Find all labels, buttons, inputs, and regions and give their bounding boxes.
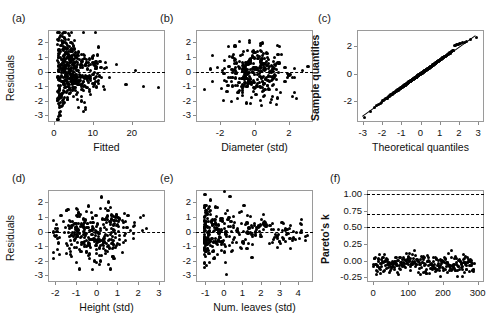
data-point [246, 49, 249, 52]
data-point [291, 95, 294, 98]
data-point [99, 259, 102, 262]
x-tickmark [76, 282, 77, 285]
x-tickmark [205, 282, 206, 285]
x-axis-tick-label: 300 [458, 287, 498, 298]
data-point [112, 228, 115, 231]
data-point [64, 46, 67, 49]
x-axis-tick-label: 10 [73, 127, 113, 138]
data-point [216, 206, 219, 209]
data-point [57, 48, 60, 51]
data-point [232, 215, 235, 218]
x-tickmark [363, 122, 364, 125]
panel-letter-qq-plot: (c) [318, 12, 331, 24]
data-point [77, 211, 80, 214]
x-tickmark [255, 122, 256, 125]
data-point [427, 256, 430, 259]
data-point [145, 227, 148, 230]
data-point [257, 226, 260, 229]
data-point [273, 67, 276, 70]
data-point [91, 268, 94, 271]
y-axis-label-qq-plot: Sample quantiles [309, 34, 321, 120]
data-point [108, 76, 111, 79]
data-point [210, 219, 213, 222]
data-point [475, 36, 478, 39]
data-point [97, 45, 100, 48]
data-point [118, 238, 121, 241]
data-point [132, 232, 135, 235]
data-point [81, 60, 84, 63]
x-tickmark [421, 122, 422, 125]
data-point [107, 263, 110, 266]
data-point [280, 53, 283, 56]
data-point [80, 95, 83, 98]
data-point [108, 238, 111, 241]
data-point [73, 238, 76, 241]
data-point [85, 75, 88, 78]
y-axis-tick-label: -2 [158, 255, 191, 266]
data-point [57, 64, 60, 67]
data-point [86, 222, 89, 225]
y-axis-tick-label: -2 [319, 95, 352, 106]
x-tickmark [242, 282, 243, 285]
data-point [447, 252, 450, 255]
data-point [228, 195, 231, 198]
data-point [220, 87, 223, 90]
y-axis-tick-label: 2 [10, 196, 43, 207]
data-point [226, 84, 229, 87]
data-point [75, 261, 78, 264]
x-tickmark [280, 282, 281, 285]
data-point [96, 54, 99, 57]
y-axis-tick-label: -2 [158, 95, 191, 106]
data-point [233, 44, 236, 47]
data-point [69, 253, 72, 256]
data-point [227, 76, 230, 79]
data-point [250, 96, 253, 99]
data-point [212, 250, 215, 253]
data-point [84, 108, 87, 111]
x-tickmark [55, 282, 56, 285]
data-point [61, 64, 64, 67]
data-point [251, 243, 254, 246]
data-point [103, 88, 106, 91]
data-point [222, 99, 225, 102]
data-point [218, 228, 221, 231]
data-point [231, 249, 234, 252]
data-point [282, 237, 285, 240]
data-point [78, 267, 81, 270]
data-point [57, 241, 60, 244]
data-point [236, 97, 239, 100]
data-point [89, 93, 92, 96]
data-point [223, 190, 226, 193]
data-point [225, 90, 228, 93]
data-layer-residuals-vs-diameter [196, 30, 313, 122]
data-point [399, 268, 402, 271]
data-point [414, 254, 417, 257]
data-point [250, 256, 253, 259]
zero-reference-line [196, 232, 313, 233]
data-point [82, 31, 85, 34]
data-point [263, 223, 266, 226]
data-point [249, 215, 252, 218]
data-point [66, 82, 69, 85]
data-point [52, 257, 55, 260]
data-point [260, 66, 263, 69]
data-point [247, 227, 250, 230]
data-point [276, 246, 279, 249]
data-point [300, 223, 303, 226]
data-point [112, 223, 115, 226]
data-point [65, 209, 68, 212]
figure-canvas: (a)210-1-2-301020FittedResiduals(b)210-1… [0, 0, 502, 331]
data-point [264, 68, 267, 71]
data-point [56, 248, 59, 251]
data-point [76, 234, 79, 237]
data-point [269, 101, 272, 104]
data-point [404, 266, 407, 269]
data-point [269, 224, 272, 227]
data-point [68, 219, 71, 222]
data-point [261, 41, 264, 44]
data-point [99, 207, 102, 210]
data-point [61, 40, 64, 43]
data-point [275, 88, 278, 91]
data-point [300, 218, 303, 221]
y-axis-tick-label: 0 [319, 68, 352, 79]
